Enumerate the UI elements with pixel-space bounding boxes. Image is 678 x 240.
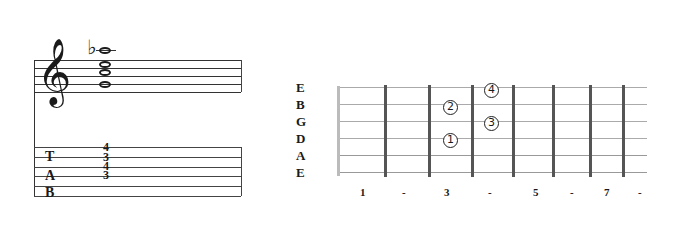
fret-wire <box>589 85 592 177</box>
fret-number: - <box>488 187 492 198</box>
string-label-b: B <box>296 98 305 111</box>
tab-letter-b: B <box>45 186 54 200</box>
fret-number: 1 <box>360 187 366 198</box>
fret-wire <box>428 85 431 177</box>
whole-note <box>99 69 111 76</box>
fret-number: - <box>570 187 574 198</box>
finger-marker: 4 <box>484 83 499 98</box>
treble-clef-icon: 𝄞 <box>37 42 71 100</box>
fret-wire <box>512 85 515 177</box>
string-label-e-low: E <box>296 166 305 179</box>
fret-number: 5 <box>533 187 539 198</box>
whole-note <box>99 81 111 88</box>
finger-marker: 3 <box>484 116 499 131</box>
whole-note <box>99 61 111 68</box>
string-label-d: D <box>296 132 305 145</box>
fret-wire <box>384 85 387 177</box>
finger-marker: 1 <box>443 133 458 148</box>
tab-line <box>34 196 241 197</box>
tab-line <box>34 167 241 168</box>
fret-wire <box>552 85 555 177</box>
barline <box>241 60 242 92</box>
tab-line <box>34 157 241 158</box>
fret-number: - <box>402 187 406 198</box>
flat-icon: ♭ <box>87 37 96 57</box>
tab-fret-number: 3 <box>103 169 109 181</box>
fret-wire <box>471 85 474 177</box>
barline <box>241 147 242 196</box>
string-label-e-high: E <box>296 81 305 94</box>
fret-number: 3 <box>444 187 450 198</box>
fret-wire <box>622 85 625 177</box>
fret-number: - <box>638 187 642 198</box>
string-label-g: G <box>296 115 306 128</box>
tab-line <box>34 186 241 187</box>
tab-letter-a: A <box>45 169 55 183</box>
nut <box>337 86 340 176</box>
string-label-a: A <box>296 149 305 162</box>
fret-number: 7 <box>604 187 610 198</box>
whole-note <box>99 47 111 54</box>
tab-line <box>34 147 241 148</box>
tab-letter-t: T <box>45 150 54 164</box>
tab-line <box>34 176 241 177</box>
finger-marker: 2 <box>443 100 458 115</box>
